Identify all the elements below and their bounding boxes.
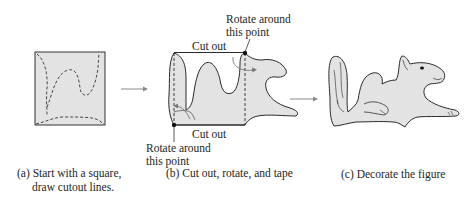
panel-c-squirrel [329, 56, 459, 127]
top-cut-out-label: Cut out [192, 40, 226, 52]
arrow-b-to-c [290, 97, 318, 102]
bottom-cut-out-label: Cut out [192, 128, 226, 140]
panel-b-shape [169, 39, 298, 142]
caption-a-line2: draw cutout lines. [32, 181, 114, 194]
top-rotate-label-line2: this point [226, 26, 269, 38]
caption-b: (b) Cut out, rotate, and tape [166, 167, 293, 180]
panel-a-square [35, 52, 105, 125]
caption-c: (c) Decorate the figure [341, 168, 445, 181]
caption-a-line1: (a) Start with a square, [17, 167, 121, 180]
bottom-rotate-label-line2: this point [146, 155, 189, 167]
bottom-rotate-label-line1: Rotate around [146, 142, 211, 154]
top-rotate-label-line1: Rotate around [226, 13, 291, 25]
arrow-a-to-b [121, 87, 148, 92]
